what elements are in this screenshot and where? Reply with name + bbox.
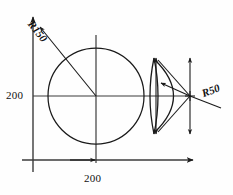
center-lines-group bbox=[33, 35, 191, 163]
drawing-canvas: 200 200 R150 R50 bbox=[0, 0, 233, 195]
r50-diagonal-upper bbox=[158, 60, 190, 96]
dimension-label-horizontal: 200 bbox=[84, 172, 101, 184]
r50-diagonal-lower bbox=[158, 96, 190, 132]
dimension-label-vertical: 200 bbox=[6, 89, 23, 101]
r50-radius-arrow bbox=[161, 83, 190, 96]
